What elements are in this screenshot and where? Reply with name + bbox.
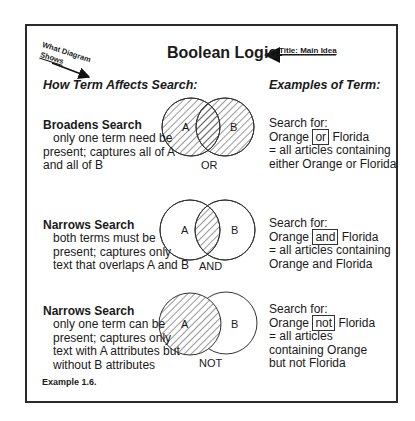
venn-label-b: B <box>230 121 237 133</box>
row-heading: Narrows Search <box>43 304 180 318</box>
row-not-description: Narrows Search only one term can be pres… <box>43 304 180 372</box>
desc-line: without B attributes <box>43 359 180 373</box>
what-diagram-arrow-icon <box>52 63 89 77</box>
example-result: either Orange or Florida <box>269 158 396 172</box>
row-heading: Narrows Search <box>43 218 189 232</box>
row-and-description: Narrows Search both terms must be presen… <box>43 218 189 273</box>
title-main-idea-note: Title: Main Idea <box>279 46 337 55</box>
example-result: containing Orange <box>269 344 375 358</box>
row-or-example: Search for: Orange or Florida = all arti… <box>269 117 396 171</box>
diagram-title: Boolean Logic <box>167 44 277 62</box>
operator-label-or: OR <box>201 159 218 171</box>
venn-label-a: A <box>181 318 188 330</box>
venn-label-b: B <box>231 318 238 330</box>
example-result: Orange and Florida <box>269 258 391 272</box>
desc-line: text with A attributes but <box>43 345 180 359</box>
venn-label-a: A <box>181 224 188 236</box>
row-and-example: Search for: Orange and Florida = all art… <box>269 217 391 271</box>
desc-line: present; captures only <box>43 246 189 260</box>
example-result: = all articles <box>269 330 375 344</box>
row-heading: Broadens Search <box>43 118 175 132</box>
example-query: Orange not Florida <box>269 317 375 331</box>
desc-line: only one term need be <box>43 132 175 146</box>
example-query: Orange and Florida <box>269 231 391 245</box>
row-not-example: Search for: Orange not Florida = all art… <box>269 303 375 371</box>
example-line: Search for: <box>269 117 396 131</box>
desc-line: text that overlaps A and B <box>43 259 189 273</box>
left-column-header: How Term Affects Search: <box>43 78 197 92</box>
operator-label-and: AND <box>199 260 222 272</box>
desc-line: both terms must be <box>43 232 189 246</box>
example-caption: Example 1.6. <box>42 377 97 387</box>
example-result: = all articles containing <box>269 144 396 158</box>
venn-label-b: B <box>231 224 238 236</box>
desc-line: and all of B <box>43 159 175 173</box>
example-result: = all articles containing <box>269 244 391 258</box>
desc-line: only one term can be <box>43 318 180 332</box>
venn-or-icon <box>162 98 254 156</box>
venn-label-a: A <box>182 121 189 133</box>
desc-line: present; captures all of A <box>43 146 175 160</box>
example-query: Orange or Florida <box>269 131 396 145</box>
row-or-description: Broadens Search only one term need be pr… <box>43 118 175 173</box>
operator-label-not: NOT <box>199 357 222 369</box>
right-column-header: Examples of Term: <box>269 78 380 92</box>
example-result: but not Florida <box>269 357 375 371</box>
desc-line: present; captures only <box>43 332 180 346</box>
